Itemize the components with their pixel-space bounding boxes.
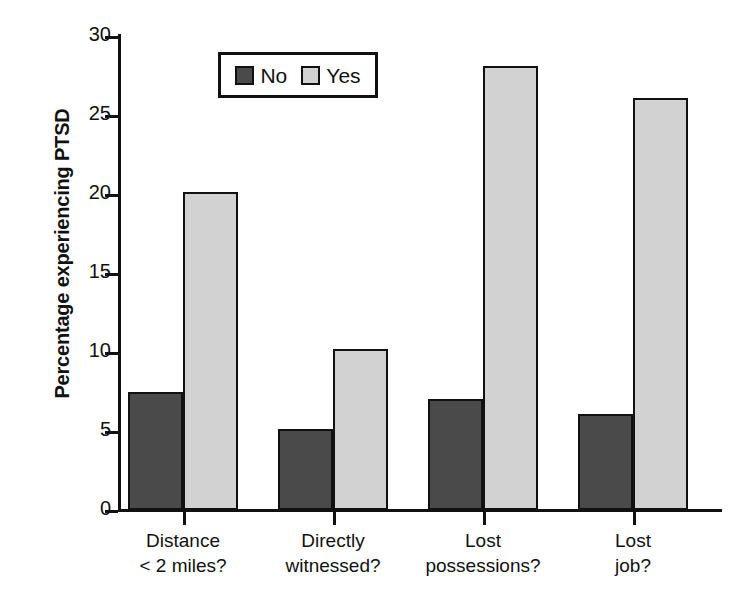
bar-chart: Percentage experiencing PTSD 05101520253… (0, 0, 740, 602)
x-axis-category-label: Distance < 2 miles? (103, 528, 263, 578)
y-axis-tick-label: 15 (89, 261, 111, 281)
bar-no-0 (128, 392, 183, 511)
legend-swatch-yes-icon (301, 66, 320, 85)
y-axis-tick-label: 0 (100, 498, 111, 518)
x-axis-category-label: Lost job? (553, 528, 713, 578)
y-axis-tick-label: 10 (89, 340, 111, 360)
legend: No Yes (218, 52, 378, 98)
bar-yes-2 (483, 66, 538, 510)
y-axis-tick-label: 25 (89, 103, 111, 123)
bar-yes-3 (633, 98, 688, 510)
y-axis-tick-label: 5 (100, 419, 111, 439)
bar-yes-1 (333, 349, 388, 510)
x-axis-tick-mark (333, 512, 336, 525)
y-axis-tick-label: 30 (89, 24, 111, 44)
bar-yes-0 (183, 192, 238, 510)
bar-no-1 (278, 429, 333, 510)
y-axis-title: Percentage experiencing PTSD (51, 44, 74, 464)
legend-entry-yes: Yes (301, 65, 360, 86)
legend-entry-no: No (235, 65, 287, 86)
x-axis-tick-mark (483, 512, 486, 525)
x-axis-category-label: Directly witnessed? (253, 528, 413, 578)
bar-no-2 (428, 399, 483, 510)
y-axis-tick-label: 20 (89, 182, 111, 202)
x-axis-tick-mark (183, 512, 186, 525)
plot-area: 051015202530 (118, 36, 718, 510)
bar-no-3 (578, 414, 633, 510)
legend-label-no: No (260, 65, 287, 86)
x-axis-tick-mark (633, 512, 636, 525)
legend-swatch-no-icon (235, 66, 254, 85)
legend-label-yes: Yes (326, 65, 360, 86)
x-axis-category-label: Lost possessions? (403, 528, 563, 578)
